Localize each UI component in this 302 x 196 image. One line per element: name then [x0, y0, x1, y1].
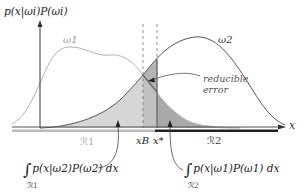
- region-r1-label: ℛ1: [80, 137, 94, 147]
- right-integral-subscript: ℛ2: [188, 182, 199, 190]
- reducible-error-line1: reducible: [203, 73, 248, 84]
- y-axis-arrow-icon: [38, 20, 43, 27]
- x-axis-label: x: [289, 120, 295, 131]
- right-integral: ∫p(x|ω1)P(ω1) dx: [184, 162, 279, 178]
- region-r2-bar: [155, 130, 278, 133]
- xb-label: xB: [136, 136, 149, 146]
- region-r1-bar: [12, 130, 155, 133]
- integral-symbol: ∫: [184, 160, 192, 179]
- reducible-error-line2: error: [203, 84, 248, 95]
- reducible-error-label: reducible error: [203, 73, 248, 95]
- integral-symbol: ∫: [23, 160, 31, 179]
- xstar-label: x*: [153, 136, 164, 146]
- region-r2-label: ℛ2: [207, 136, 221, 146]
- omega1-label: ω1: [63, 35, 78, 45]
- left-error-fill: [40, 75, 143, 128]
- left-integral-subscript: ℛ1: [27, 182, 38, 190]
- right-error-fill: [157, 92, 250, 128]
- right-integral-arrow: [170, 126, 183, 170]
- left-integral: ∫p(x|ω2)P(ω2) dx: [23, 162, 118, 178]
- left-integral-expression: p(x|ω2)P(ω2) dx: [32, 162, 118, 174]
- right-integral-expression: p(x|ω1)P(ω1) dx: [193, 162, 279, 174]
- omega2-label: ω2: [218, 35, 233, 45]
- y-axis-label: p(x|ωi)P(ωi): [4, 6, 67, 17]
- reducible-error-arrow: [152, 73, 200, 80]
